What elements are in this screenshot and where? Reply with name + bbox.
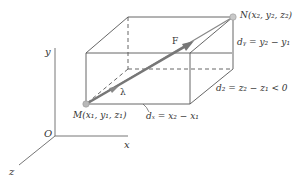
diagram-canvas: y x z O M(x₁, y₁, z₁) N(x₂, y₂, z₂) F λ … — [0, 0, 306, 178]
point-M — [83, 101, 89, 107]
origin-label: O — [44, 129, 52, 139]
point-M-label: M(x₁, y₁, z₁) — [73, 111, 126, 120]
point-N — [230, 14, 236, 20]
dx-label: dₓ = x₂ − x₁ — [146, 112, 199, 121]
box-edge — [190, 17, 233, 53]
force-arrowhead — [182, 41, 194, 51]
z-axis-label: z — [9, 167, 14, 177]
dy-label: dᵧ = y₂ − y₁ — [237, 38, 290, 47]
x-axis-label: x — [124, 140, 130, 150]
z-axis — [19, 136, 55, 165]
axes — [19, 48, 128, 165]
box-edge — [86, 17, 128, 53]
lambda-label: λ — [120, 88, 126, 97]
force-arrow-shaft — [86, 46, 186, 104]
lambda-arrowhead — [109, 86, 119, 93]
force-label: F — [172, 37, 178, 46]
dz-label: d₂ = z₂ − z₁ < 0 — [216, 84, 288, 93]
point-N-label: N(x₂, y₂, z₂) — [240, 11, 292, 20]
y-axis-label: y — [45, 47, 51, 57]
